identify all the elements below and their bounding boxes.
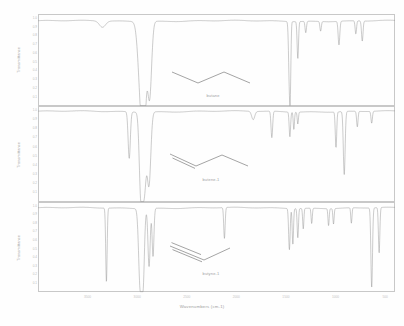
y-tick-label: 0.1: [33, 282, 37, 285]
ylabel-butyne-1: Transmittance: [12, 220, 24, 276]
x-tick-label: 1000: [326, 296, 346, 299]
molecule-label-butene-1: butene-1: [156, 177, 266, 182]
molecule-butyne-1: butyne-1: [156, 238, 266, 276]
y-tick-label: 0.2: [33, 273, 37, 276]
y-tick-label: 0.7: [33, 230, 37, 233]
y-tick-label: 1.0: [33, 205, 37, 208]
panel-butane: butane: [38, 14, 395, 106]
y-tick-label: 0.3: [33, 173, 37, 176]
y-tick-label: 0.8: [33, 127, 37, 130]
y-tick-label: 0.6: [33, 52, 37, 55]
x-tick-label: 3000: [127, 296, 147, 299]
butyne-1-structure-icon: [156, 238, 266, 266]
y-tick-label: 0.8: [33, 222, 37, 225]
y-tick-label: 0.1: [33, 191, 37, 194]
y-tick-label: 0.2: [33, 182, 37, 185]
x-tick-label: 2500: [177, 296, 197, 299]
y-tick-label: 0.5: [33, 155, 37, 158]
x-tick-label: 3500: [78, 296, 98, 299]
y-tick-label: 1.0: [33, 109, 37, 112]
y-tick-label: 0.6: [33, 146, 37, 149]
y-tick-label: 0.4: [33, 256, 37, 259]
y-tick-label: 0.3: [33, 265, 37, 268]
y-tick-label: 0.3: [33, 78, 37, 81]
butane-structure-icon: [158, 66, 268, 88]
y-tick-label: 0.9: [33, 118, 37, 121]
y-tick-label: 0.7: [33, 43, 37, 46]
molecule-label-butane: butane: [158, 93, 268, 98]
butene-1-structure-icon: [156, 148, 266, 172]
ylabel-butane: Transmittance: [12, 32, 24, 88]
ylabel-butene-1: Transmittance: [12, 126, 24, 184]
y-tick-label: 0.7: [33, 136, 37, 139]
y-tick-label: 0.9: [33, 213, 37, 216]
panel-butene-1: butene-1: [38, 106, 395, 202]
x-tick-label: 2000: [226, 296, 246, 299]
ir-spectra-figure: butane Transmittance butene-1 Transmitta…: [0, 0, 404, 326]
x-axis-title: Wavenumbers (cm-1): [0, 304, 404, 309]
y-tick-label: 0.8: [33, 34, 37, 37]
x-tick-label: 1500: [276, 296, 296, 299]
y-tick-label: 0.4: [33, 69, 37, 72]
panel-butyne-1: butyne-1: [38, 202, 395, 292]
y-tick-label: 0.2: [33, 87, 37, 90]
molecule-label-butyne-1: butyne-1: [156, 271, 266, 276]
y-tick-label: 0.1: [33, 96, 37, 99]
molecule-butane: butane: [158, 66, 268, 98]
molecule-butene-1: butene-1: [156, 148, 266, 182]
y-tick-label: 0.5: [33, 61, 37, 64]
y-tick-label: 0.5: [33, 248, 37, 251]
y-tick-label: 1.0: [33, 17, 37, 20]
y-tick-label: 0.9: [33, 26, 37, 29]
x-tick-label: 500: [375, 296, 395, 299]
y-tick-label: 0.6: [33, 239, 37, 242]
y-tick-label: 0.4: [33, 164, 37, 167]
